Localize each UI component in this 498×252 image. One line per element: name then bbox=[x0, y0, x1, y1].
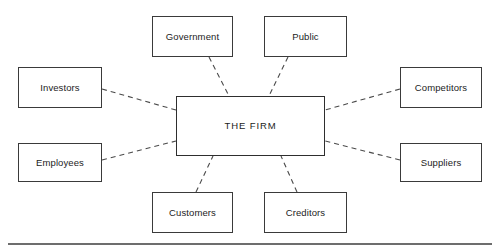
node-label-competitors: Competitors bbox=[415, 83, 467, 93]
stakeholder-diagram: THE FIRMGovernmentPublicInvestorsCompeti… bbox=[0, 0, 498, 252]
node-label-customers: Customers bbox=[169, 208, 216, 218]
node-employees: Employees bbox=[18, 143, 102, 182]
edge-competitors bbox=[325, 89, 400, 110]
edge-investors bbox=[102, 89, 176, 110]
edge-creditors bbox=[281, 156, 297, 192]
node-customers: Customers bbox=[152, 192, 233, 233]
node-label-government: Government bbox=[166, 32, 219, 42]
node-creditors: Creditors bbox=[264, 192, 347, 233]
node-label-employees: Employees bbox=[36, 158, 84, 168]
node-label-suppliers: Suppliers bbox=[421, 158, 462, 168]
node-label-creditors: Creditors bbox=[286, 208, 325, 218]
node-label-investors: Investors bbox=[40, 83, 79, 93]
node-label-public: Public bbox=[292, 32, 318, 42]
node-investors: Investors bbox=[18, 67, 102, 108]
edge-suppliers bbox=[325, 141, 400, 160]
edge-customers bbox=[196, 156, 213, 192]
bottom-divider bbox=[8, 243, 492, 245]
node-label-the-firm: THE FIRM bbox=[224, 121, 276, 131]
node-the-firm: THE FIRM bbox=[176, 96, 325, 156]
edge-public bbox=[269, 57, 288, 96]
node-government: Government bbox=[152, 16, 233, 57]
node-public: Public bbox=[264, 16, 347, 57]
edge-government bbox=[209, 57, 229, 96]
node-suppliers: Suppliers bbox=[400, 143, 482, 182]
node-competitors: Competitors bbox=[400, 67, 482, 108]
edge-employees bbox=[102, 141, 176, 160]
